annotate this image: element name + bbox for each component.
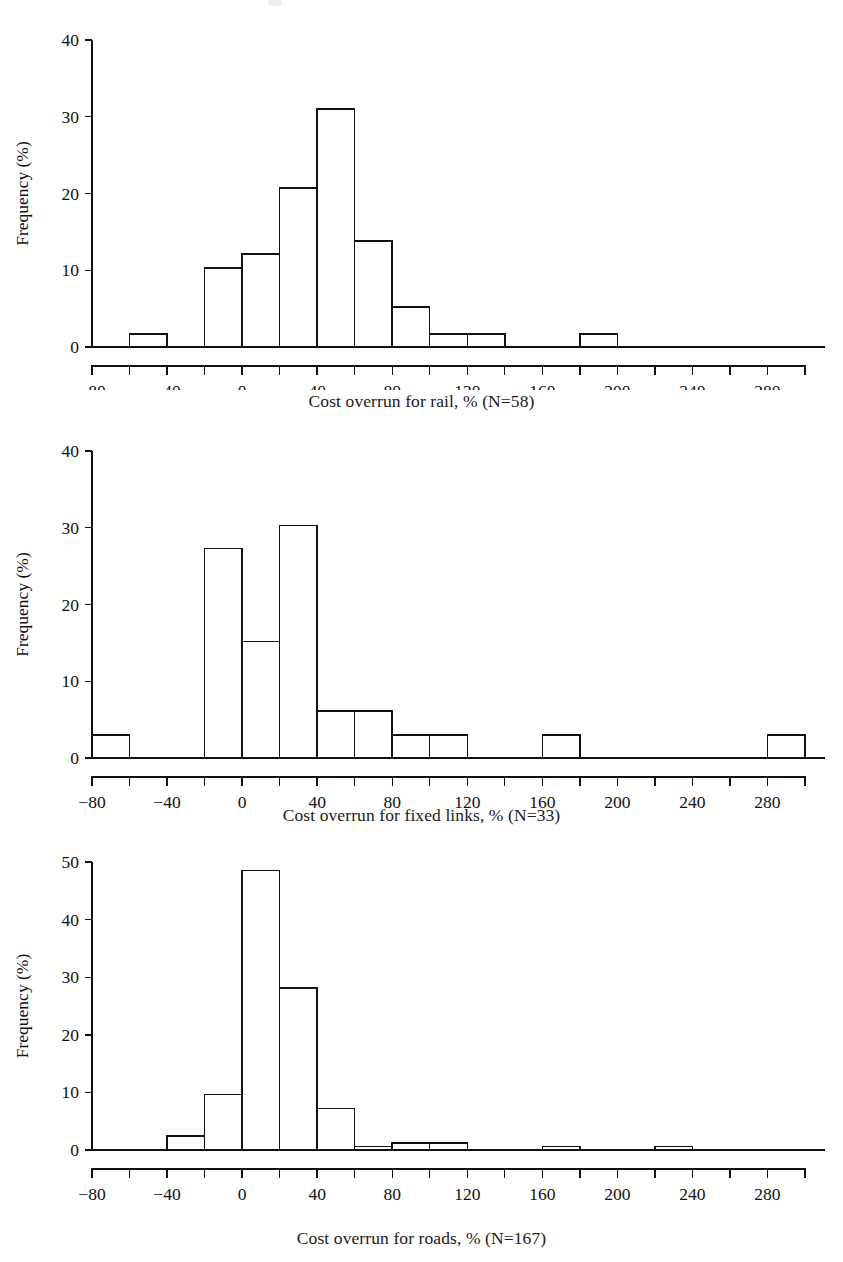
x-tick-label: 80 (383, 1184, 401, 1204)
histogram-bar (767, 735, 805, 758)
x-tick-label: 0 (238, 1184, 247, 1204)
x-tick-label: −40 (153, 1184, 181, 1204)
x-tick-label: 160 (529, 1184, 556, 1204)
x-axis-line (92, 777, 805, 786)
histogram-bar (317, 109, 355, 347)
xaxis-title-roads: Cost overrun for roads, % (N=167) (0, 1228, 843, 1249)
x-tick-label: −80 (78, 381, 106, 390)
histogram-bar (430, 1143, 468, 1150)
histogram-bar (317, 1109, 355, 1150)
x-axis-line (92, 1169, 805, 1178)
histogram-bar (392, 735, 430, 758)
x-tick-label: 80 (383, 381, 401, 390)
y-tick-label: 40 (62, 910, 80, 930)
histogram-panel-roads: 01020304050−80−4004080120160200240280Fre… (0, 832, 843, 1228)
histogram-panel-rail: 010203040−80−4004080120160200240280Frequ… (0, 0, 843, 390)
y-tick-label: 30 (62, 518, 80, 538)
histogram-bar (242, 871, 280, 1150)
histogram-bar (280, 988, 318, 1150)
y-tick-label: 10 (62, 260, 80, 280)
x-tick-label: −40 (153, 381, 181, 390)
histogram-bar (242, 641, 280, 758)
figure-histograms: 010203040−80−4004080120160200240280Frequ… (0, 0, 843, 1262)
y-tick-label: 20 (62, 1025, 80, 1045)
histogram-bar (392, 1143, 430, 1150)
x-tick-label: 240 (679, 381, 706, 390)
y-tick-label: 40 (62, 441, 80, 461)
histogram-bar (92, 735, 130, 758)
histogram-bar (542, 735, 580, 758)
x-tick-label: 0 (238, 381, 247, 390)
x-tick-label: 200 (604, 381, 631, 390)
y-tick-label: 20 (62, 595, 80, 615)
x-tick-label: 240 (679, 1184, 706, 1204)
y-tick-label: 30 (62, 967, 80, 987)
x-tick-label: 280 (754, 381, 781, 390)
histogram-bar (205, 1095, 243, 1150)
x-axis-line (92, 366, 805, 375)
x-tick-label: 200 (604, 1184, 631, 1204)
xaxis-title-fixed-links: Cost overrun for fixed links, % (N=33) (0, 805, 843, 826)
y-tick-label: 0 (70, 1140, 79, 1160)
histogram-bar (205, 268, 243, 347)
y-tick-label: 0 (70, 748, 79, 768)
y-tick-label: 40 (62, 30, 80, 50)
y-axis-title: Frequency (%) (12, 141, 32, 246)
x-tick-label: 280 (754, 1184, 781, 1204)
histogram-bar (280, 525, 318, 758)
y-tick-label: 50 (62, 852, 80, 872)
histogram-panel-fixed-links: 010203040−80−4004080120160200240280Frequ… (0, 421, 843, 831)
xaxis-title-rail: Cost overrun for rail, % (N=58) (0, 391, 843, 412)
y-axis-title: Frequency (%) (12, 552, 32, 657)
histogram-bar (392, 307, 430, 347)
y-tick-label: 30 (62, 107, 80, 127)
x-tick-label: 40 (308, 1184, 326, 1204)
y-tick-label: 10 (62, 671, 80, 691)
histogram-bar (205, 548, 243, 758)
histogram-bar (317, 711, 355, 758)
histogram-svg-0: 010203040−80−4004080120160200240280Frequ… (0, 0, 843, 390)
y-tick-label: 0 (70, 337, 79, 357)
histogram-bar (242, 254, 280, 347)
histogram-bar (355, 241, 393, 347)
y-axis-title: Frequency (%) (12, 954, 32, 1059)
x-tick-label: 40 (308, 381, 326, 390)
x-tick-label: −80 (78, 1184, 106, 1204)
histogram-bar (167, 1136, 205, 1150)
x-tick-label: 120 (454, 381, 481, 390)
histogram-bar (280, 188, 318, 347)
histogram-bar (467, 334, 505, 347)
histogram-bar (430, 334, 468, 347)
histogram-bar (355, 711, 393, 758)
histogram-svg-1: 010203040−80−4004080120160200240280Frequ… (0, 421, 843, 831)
histogram-bar (130, 334, 168, 347)
y-tick-label: 10 (62, 1082, 80, 1102)
y-tick-label: 20 (62, 184, 80, 204)
histogram-bar (580, 334, 618, 347)
x-tick-label: 120 (454, 1184, 481, 1204)
histogram-bar (430, 735, 468, 758)
x-tick-label: 160 (529, 381, 556, 390)
histogram-svg-2: 01020304050−80−4004080120160200240280Fre… (0, 832, 843, 1228)
